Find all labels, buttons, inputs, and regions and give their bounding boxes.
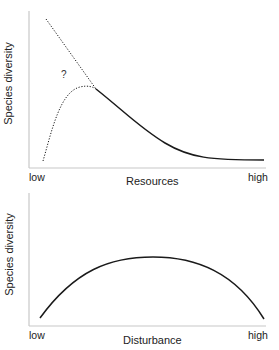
diversity-diagram: Species diversity ? low Resources high S…: [0, 0, 279, 350]
x-tick-high: high: [248, 330, 268, 341]
y-axis-label: Species diversity: [4, 213, 15, 296]
x-axis-label: Disturbance: [123, 335, 182, 346]
disturbance-plot: [0, 0, 279, 350]
hump-solid-line: [40, 257, 264, 319]
x-tick-low: low: [29, 330, 45, 341]
